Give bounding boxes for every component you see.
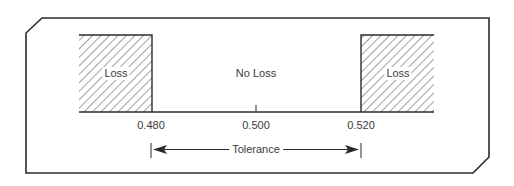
tick-label-0520: 0.520 [347, 119, 375, 132]
tick-label-0480: 0.480 [137, 119, 165, 132]
tolerance-loss-diagram [0, 0, 514, 186]
right-loss-label: Loss [384, 67, 411, 80]
left-loss-label: Loss [102, 67, 129, 80]
no-loss-label: No Loss [236, 67, 276, 80]
tolerance-label: Tolerance [229, 143, 283, 156]
tick-label-0500: 0.500 [242, 119, 270, 132]
